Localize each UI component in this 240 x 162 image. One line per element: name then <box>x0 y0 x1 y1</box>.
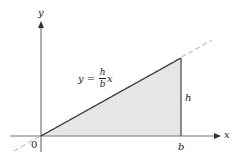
line-equation: y = h b x <box>78 68 113 89</box>
triangle-diagram <box>0 0 240 162</box>
equation-numerator: h <box>100 68 106 77</box>
equation-equals: = <box>87 73 95 84</box>
origin-label: 0 <box>31 140 37 150</box>
y-axis-arrow-icon <box>38 21 44 28</box>
x-axis-arrow-icon <box>214 133 221 139</box>
height-label: h <box>185 93 191 103</box>
equation-variable: x <box>107 73 113 84</box>
base-label: b <box>178 142 184 152</box>
equation-denominator: b <box>100 80 106 89</box>
x-axis-label: x <box>224 130 230 140</box>
y-axis-label: y <box>38 8 44 18</box>
equation-lhs: y <box>78 73 84 84</box>
equation-fraction: h b <box>99 68 106 89</box>
